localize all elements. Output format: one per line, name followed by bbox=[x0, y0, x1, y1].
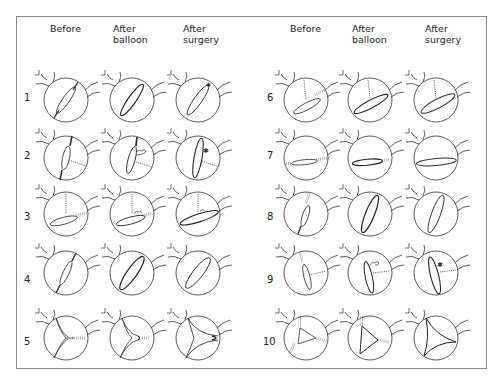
panel-3-after-balloon bbox=[101, 184, 166, 236]
panel-1-after-surgery: ✱ bbox=[167, 70, 232, 122]
panel-1-before bbox=[35, 70, 100, 122]
panel-4-after-balloon bbox=[101, 243, 166, 295]
svg-text:✱: ✱ bbox=[203, 147, 209, 154]
panel-5-after-balloon bbox=[101, 308, 166, 360]
panel-9-before bbox=[275, 243, 340, 295]
svg-text:✱: ✱ bbox=[437, 261, 443, 268]
panel-7-after-surgery bbox=[405, 128, 470, 180]
panel-8-after-surgery bbox=[405, 184, 470, 236]
panel-7-before bbox=[275, 128, 340, 180]
panel-2-after-balloon bbox=[101, 128, 166, 180]
panel-4-after-surgery bbox=[167, 243, 232, 295]
panel-6-before bbox=[275, 70, 340, 122]
panel-5-before bbox=[35, 308, 100, 360]
panel-3-before bbox=[35, 184, 100, 236]
svg-text:✱: ✱ bbox=[206, 82, 211, 88]
panel-5-after-surgery bbox=[167, 308, 232, 360]
panel-1-after-balloon bbox=[101, 70, 166, 122]
panel-6-after-balloon bbox=[339, 70, 404, 122]
panel-8-after-balloon bbox=[339, 184, 404, 236]
panel-10-after-surgery bbox=[405, 308, 470, 360]
panel-9-after-surgery: ✱ bbox=[405, 243, 470, 295]
valve-diagram-grid: ✱ ✱ bbox=[0, 0, 501, 382]
panel-2-after-surgery: ✱ bbox=[167, 128, 232, 180]
panel-10-before bbox=[275, 308, 340, 360]
panel-2-before bbox=[35, 128, 100, 180]
panel-6-after-surgery bbox=[405, 70, 470, 122]
panel-4-before bbox=[35, 243, 100, 295]
panel-7-after-balloon bbox=[339, 128, 404, 180]
panel-9-after-balloon bbox=[339, 243, 404, 295]
panel-10-after-balloon bbox=[339, 308, 404, 360]
panel-3-after-surgery bbox=[167, 184, 232, 236]
panel-8-before bbox=[275, 184, 340, 236]
